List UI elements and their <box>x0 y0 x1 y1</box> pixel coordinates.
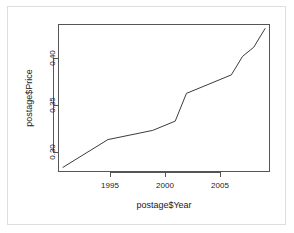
x-tick-label-1995: 1995 <box>101 181 119 190</box>
plot-box <box>59 25 270 172</box>
y-tick-label-035: 0.35 <box>48 97 57 113</box>
x-tick-label-2005: 2005 <box>211 181 229 190</box>
data-series-line <box>63 29 265 168</box>
y-tick-label-030: 0.30 <box>48 144 57 160</box>
x-tick-label-2000: 2000 <box>156 181 174 190</box>
y-tick-label-040: 0.40 <box>48 50 57 66</box>
x-axis-ticks <box>111 172 221 177</box>
plot-device: 0.40 0.35 0.30 1995 2000 2005 postage$Ye… <box>0 0 294 233</box>
y-axis-title: postage$Price <box>24 69 34 127</box>
x-axis-title: postage$Year <box>136 200 191 210</box>
line-chart: 0.40 0.35 0.30 1995 2000 2005 postage$Ye… <box>0 0 294 233</box>
